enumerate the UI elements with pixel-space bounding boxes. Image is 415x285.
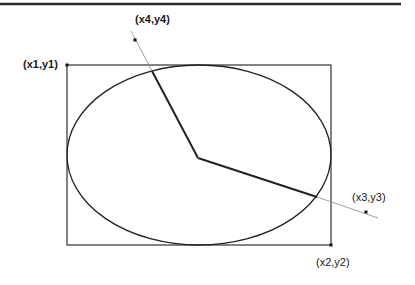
end-radius-line <box>198 158 317 197</box>
point-marker-p3 <box>365 211 368 214</box>
point-marker-p2 <box>330 244 333 247</box>
label-p3: (x3,y3) <box>352 192 386 203</box>
start-radius-line <box>152 71 198 158</box>
label-p4: (x4,y4) <box>135 14 170 25</box>
point-marker-p4 <box>134 39 137 42</box>
label-p2: (x2,y2) <box>316 257 350 268</box>
ellipse-arc-diagram <box>0 0 415 285</box>
bounding-rectangle <box>67 65 331 245</box>
label-p1: (x1,y1) <box>23 59 58 70</box>
inscribed-ellipse <box>67 65 331 245</box>
center-point <box>197 157 199 159</box>
point-marker-p1 <box>66 64 69 67</box>
